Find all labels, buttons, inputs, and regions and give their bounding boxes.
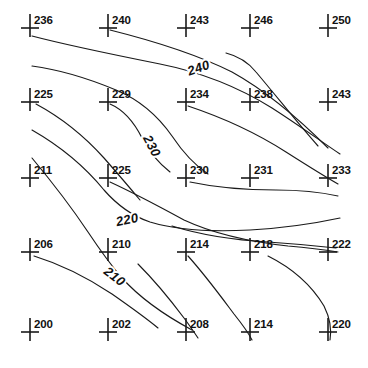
spot-elevation-value: 246 xyxy=(254,14,273,26)
contour-line xyxy=(110,30,328,148)
contour-line xyxy=(268,256,331,340)
spot-elevation-value: 218 xyxy=(254,238,273,250)
spot-elevation-value: 222 xyxy=(332,238,351,250)
spot-elevation-value: 225 xyxy=(34,88,53,100)
contour-line xyxy=(190,182,338,196)
contour-line xyxy=(110,182,338,252)
contour-line xyxy=(36,104,140,200)
spot-elevation-value: 229 xyxy=(112,88,131,100)
spot-elevation-value: 243 xyxy=(190,14,209,26)
spot-elevation-value: 225 xyxy=(112,164,131,176)
contour-map-canvas: 2362402432462502252292342382432112252302… xyxy=(0,0,368,368)
spot-elevation-value: 233 xyxy=(332,164,351,176)
spot-elevation-marker-layer xyxy=(21,14,337,341)
contour-label-value: 230 xyxy=(140,132,165,160)
spot-elevation-value: 236 xyxy=(34,14,53,26)
spot-elevation-value: 202 xyxy=(112,318,131,330)
spot-elevation-value: 210 xyxy=(112,238,131,250)
spot-elevation-value: 238 xyxy=(254,88,273,100)
spot-elevation-value: 230 xyxy=(190,164,209,176)
spot-elevation-value: 211 xyxy=(34,164,53,176)
spot-elevation-value: 206 xyxy=(34,238,53,250)
spot-elevation-value: 234 xyxy=(190,88,209,100)
contour-line xyxy=(110,104,170,172)
spot-elevation-value: 214 xyxy=(254,318,273,330)
contour-label-value: 240 xyxy=(184,57,212,79)
spot-elevation-value: 231 xyxy=(254,164,273,176)
contour-elevation-label: 220220 xyxy=(113,210,140,230)
spot-elevation-value: 240 xyxy=(112,14,131,26)
spot-elevation-value: 220 xyxy=(332,318,351,330)
spot-elevation-value: 243 xyxy=(332,88,351,100)
spot-elevation-value: 214 xyxy=(190,238,209,250)
contour-line xyxy=(32,66,208,174)
contour-map-figure: 2362402432462502252292342382432112252302… xyxy=(0,0,368,368)
contour-elevation-label: 230230 xyxy=(140,132,165,160)
contour-elevation-label: 210210 xyxy=(100,263,128,290)
contour-elevation-label: 240240 xyxy=(184,57,212,79)
spot-elevation-value: 208 xyxy=(190,318,209,330)
contour-label-value: 220 xyxy=(113,210,140,230)
spot-elevation-value: 200 xyxy=(34,318,53,330)
spot-elevation-value: 250 xyxy=(332,14,351,26)
contour-line xyxy=(34,256,158,328)
contour-label-value: 210 xyxy=(100,263,128,290)
